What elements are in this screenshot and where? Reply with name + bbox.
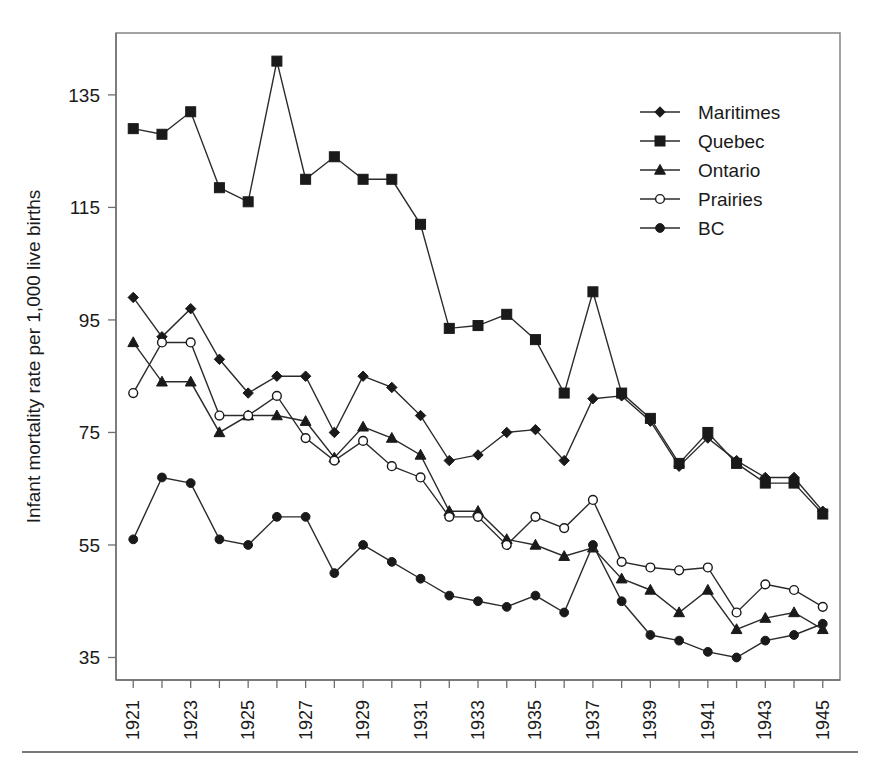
data-point-marker (329, 427, 339, 437)
data-point-marker (300, 371, 310, 381)
data-point-marker (387, 557, 396, 566)
data-point-marker (128, 292, 138, 302)
legend-item-quebec[interactable]: Quebec (640, 131, 765, 152)
data-point-marker (589, 541, 598, 550)
x-tick-label: 1943 (755, 700, 775, 740)
data-point-marker (502, 541, 511, 550)
data-point-marker (473, 321, 483, 331)
data-point-marker (387, 174, 397, 184)
figure-container: 35557595115135 Infant mortality rate per… (0, 0, 880, 778)
data-point-marker (675, 636, 684, 645)
data-point-marker (444, 323, 454, 333)
data-point-marker (559, 388, 569, 398)
data-point-marker (655, 136, 665, 146)
legend-label: BC (698, 218, 724, 239)
data-point-marker (272, 56, 282, 66)
data-point-marker (645, 413, 655, 423)
legend-item-bc[interactable]: BC (640, 218, 724, 239)
data-point-marker (186, 479, 195, 488)
legend-label: Quebec (698, 131, 765, 152)
data-point-marker (329, 152, 339, 162)
data-point-marker (732, 608, 741, 617)
data-point-marker (675, 566, 684, 575)
data-point-marker (617, 597, 626, 606)
legend-label: Prairies (698, 189, 762, 210)
series-line (133, 342, 823, 612)
data-point-marker (215, 535, 224, 544)
x-tick-label: 1939 (640, 700, 660, 740)
x-axis-ticks (133, 680, 823, 688)
data-point-marker (272, 512, 281, 521)
y-tick-label: 55 (79, 535, 100, 556)
data-point-marker (301, 174, 311, 184)
data-point-marker (186, 107, 196, 117)
data-point-marker (215, 411, 224, 420)
data-point-marker (214, 427, 225, 437)
x-tick-label: 1945 (813, 700, 833, 740)
data-point-marker (157, 129, 167, 139)
x-tick-label: 1933 (468, 700, 488, 740)
data-point-marker (474, 512, 483, 521)
x-tick-label: 1931 (411, 700, 431, 740)
data-point-marker (301, 434, 310, 443)
series-bc (129, 473, 827, 662)
data-point-marker (359, 436, 368, 445)
x-tick-label: 1941 (698, 700, 718, 740)
chart-legend: MaritimesQuebecOntarioPrairiesBC (640, 102, 780, 239)
data-point-marker (129, 535, 138, 544)
data-point-marker (416, 473, 425, 482)
data-point-marker (761, 636, 770, 645)
legend-label: Ontario (698, 160, 760, 181)
data-point-marker (128, 124, 138, 134)
data-point-marker (656, 224, 665, 233)
data-point-marker (589, 496, 598, 505)
data-point-marker (386, 432, 397, 442)
data-point-marker (214, 183, 224, 193)
data-point-marker (301, 512, 310, 521)
data-point-marker (502, 309, 512, 319)
legend-item-maritimes[interactable]: Maritimes (640, 102, 780, 123)
data-point-marker (158, 473, 167, 482)
x-tick-label: 1937 (583, 700, 603, 740)
y-tick-label: 115 (70, 197, 100, 218)
data-point-marker (732, 653, 741, 662)
data-point-marker (244, 411, 253, 420)
y-tick-label: 35 (79, 647, 100, 668)
data-point-marker (818, 509, 828, 519)
data-point-marker (186, 338, 195, 347)
data-point-marker (760, 478, 770, 488)
data-point-marker (588, 287, 598, 297)
y-tick-label: 135 (68, 85, 100, 106)
data-point-marker (415, 449, 426, 459)
y-tick-label: 95 (79, 310, 100, 331)
data-point-marker (789, 607, 800, 617)
data-point-marker (703, 647, 712, 656)
data-point-marker (655, 107, 665, 117)
legend-item-prairies[interactable]: Prairies (640, 189, 762, 210)
data-point-marker (358, 371, 368, 381)
data-point-marker (502, 602, 511, 611)
data-point-marker (588, 393, 598, 403)
data-point-marker (646, 631, 655, 640)
x-tick-label: 1923 (181, 700, 201, 740)
data-point-marker (761, 580, 770, 589)
x-tick-label: 1929 (353, 700, 373, 740)
y-axis-ticks: 35557595115135 (68, 85, 116, 669)
data-point-marker (474, 597, 483, 606)
y-tick-label: 75 (79, 422, 100, 443)
data-point-marker (790, 586, 799, 595)
data-point-marker (416, 574, 425, 583)
series-line (133, 477, 823, 657)
y-axis-label: Infant mortality rate per 1,000 live bir… (23, 190, 44, 524)
series-line (133, 61, 823, 514)
data-point-marker (617, 388, 627, 398)
data-point-marker (416, 219, 426, 229)
x-axis-tick-labels: 1921192319251927192919311933193519371939… (123, 700, 833, 740)
data-point-marker (617, 557, 626, 566)
data-point-marker (818, 602, 827, 611)
data-point-marker (358, 421, 369, 431)
data-point-marker (702, 584, 713, 594)
data-point-marker (655, 164, 666, 174)
legend-label: Maritimes (698, 102, 780, 123)
legend-item-ontario[interactable]: Ontario (640, 160, 760, 181)
